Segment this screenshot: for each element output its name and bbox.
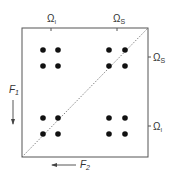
dot <box>122 63 128 69</box>
right-label-1: ΩS <box>153 52 165 64</box>
dot-group-top-left <box>40 47 61 69</box>
dot <box>40 131 46 137</box>
dot <box>40 47 46 53</box>
dot <box>55 47 61 53</box>
dot <box>122 47 128 53</box>
dot-group-top-right <box>106 47 128 69</box>
dot <box>106 63 112 69</box>
dot <box>106 47 112 53</box>
top-label-2: ΩS <box>113 13 125 25</box>
f2-label: F2 <box>80 159 90 171</box>
dot <box>55 131 61 137</box>
diagram-canvas: ΩI ΩS ΩS ΩI F1 F2 <box>0 0 178 177</box>
right-label-2: ΩI <box>153 121 162 133</box>
dot <box>40 115 46 121</box>
dot <box>122 131 128 137</box>
f2-arrow-icon <box>51 163 76 167</box>
dot <box>106 131 112 137</box>
dot <box>122 115 128 121</box>
dot-group-bottom-right <box>106 115 128 137</box>
top-label-1: ΩI <box>47 13 56 25</box>
dot <box>40 63 46 69</box>
dot-group-bottom-left <box>40 115 61 137</box>
f1-arrow-icon <box>11 100 15 125</box>
dot <box>55 63 61 69</box>
dot <box>55 115 61 121</box>
f1-label: F1 <box>9 84 19 96</box>
diagonal-line <box>22 28 148 157</box>
dot <box>106 115 112 121</box>
